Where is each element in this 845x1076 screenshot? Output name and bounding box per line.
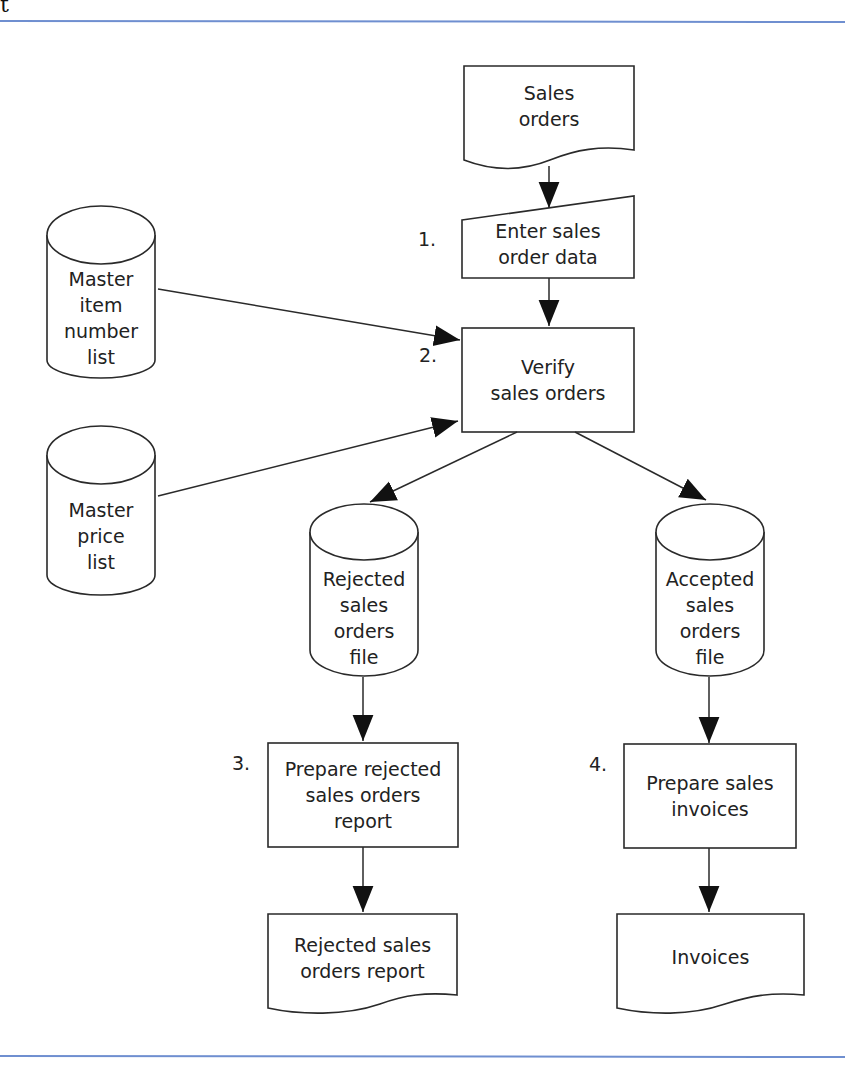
step-4-number: 4. [589,751,607,777]
rejected-report-label: Rejected sales orders report [268,932,457,984]
top-rule [0,21,845,22]
step-4-label: Prepare sales invoices [624,770,796,822]
arrow-verify-to-accepted [575,432,706,500]
step-3-number: 3. [232,750,250,776]
step-1-label: Enter sales order data [462,218,634,270]
bottom-rule [0,1056,845,1057]
rejected-file-label: Rejected sales orders file [310,566,418,670]
step-2-number: 2. [419,342,437,368]
accepted-file-label: Accepted sales orders file [656,566,764,670]
master-price-list-label: Master price list [47,497,155,575]
arrow-price-list-to-verify [158,421,458,496]
master-item-list-label: Master item number list [47,266,155,370]
arrow-verify-to-rejected [370,432,517,502]
step-1-number: 1. [418,226,436,252]
step-3-label: Prepare rejected sales orders report [268,756,458,834]
step-2-label: Verify sales orders [462,354,634,406]
sales-orders-label: Sales orders [464,80,634,132]
invoices-label: Invoices [617,944,804,970]
arrow-item-list-to-verify [158,289,460,340]
